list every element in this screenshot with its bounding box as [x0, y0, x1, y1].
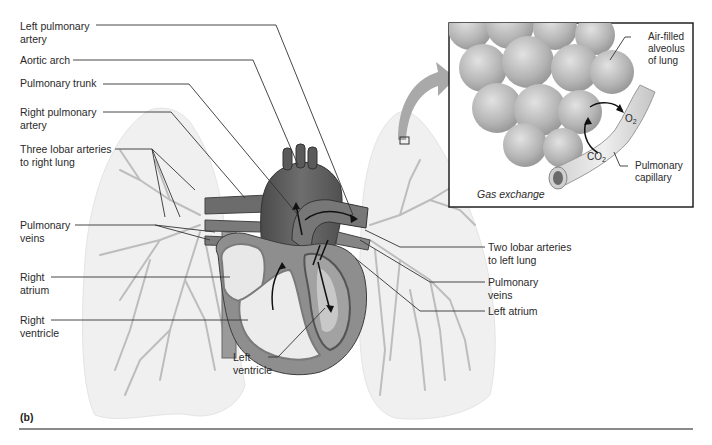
label-pulmonary-veins-left: Pulmonaryveins — [488, 276, 538, 301]
label-text: atrium — [20, 284, 49, 297]
label-pulmonary-veins-right: Pulmonaryveins — [20, 219, 70, 244]
label-text: alveolus — [648, 43, 685, 55]
label-text: Left pulmonary — [20, 20, 89, 32]
anatomy-illustration — [0, 0, 712, 445]
label-text: Two lobar arteries — [488, 241, 571, 253]
label-left-ventricle: Leftventricle — [233, 351, 272, 376]
label-text: capillary — [635, 172, 683, 184]
label-aortic-arch: Aortic arch — [20, 54, 70, 67]
label-three-lobar-arteries: Three lobar arteriesto right lung — [20, 143, 112, 168]
label-oxygen: O2 — [625, 113, 637, 129]
label-text: Pulmonary — [488, 276, 538, 288]
label-text: Aortic arch — [20, 54, 70, 66]
label-pulmonary-capillary: Pulmonarycapillary — [635, 160, 683, 184]
label-right-atrium: Rightatrium — [20, 271, 49, 296]
bottom-rule — [19, 428, 693, 430]
label-text: veins — [488, 289, 538, 302]
label-text: to right lung — [20, 156, 112, 169]
label-text: Left atrium — [488, 305, 538, 317]
label-text: ventricle — [20, 327, 59, 340]
label-text: Left — [233, 351, 251, 363]
label-right-pulmonary-artery: Right pulmonaryartery — [20, 106, 96, 131]
gas-subscript: 2 — [602, 156, 606, 163]
label-text: veins — [20, 232, 70, 245]
pulmonary-circulation-figure: Left pulmonaryartery Aortic arch Pulmona… — [0, 0, 712, 445]
label-text: of lung — [648, 55, 685, 67]
label-text: artery — [20, 119, 96, 132]
gas-subscript: 2 — [633, 118, 637, 125]
label-text: to left lung — [488, 254, 571, 267]
label-right-ventricle: Rightventricle — [20, 314, 59, 339]
label-text: Right pulmonary — [20, 106, 96, 118]
gas-formula: CO — [587, 151, 602, 162]
label-text: Right — [20, 271, 45, 283]
label-carbon-dioxide: CO2 — [587, 151, 606, 167]
label-text: Three lobar arteries — [20, 143, 112, 155]
label-text: artery — [20, 33, 89, 46]
label-text: Air-filled — [648, 31, 684, 42]
label-text: Pulmonary — [635, 160, 683, 171]
label-text: Pulmonary — [20, 219, 70, 231]
label-air-filled-alveolus: Air-filledalveolusof lung — [648, 31, 685, 67]
label-two-lobar-arteries: Two lobar arteriesto left lung — [488, 241, 571, 266]
label-text: Right — [20, 314, 45, 326]
label-pulmonary-trunk: Pulmonary trunk — [20, 77, 96, 90]
label-left-atrium: Left atrium — [488, 305, 538, 318]
label-text: Pulmonary trunk — [20, 77, 96, 89]
label-text: ventricle — [233, 364, 272, 377]
heart — [205, 144, 370, 375]
inset-caption: Gas exchange — [477, 188, 545, 200]
gas-formula: O — [625, 113, 633, 124]
label-left-pulmonary-artery: Left pulmonaryartery — [20, 20, 89, 45]
panel-label: (b) — [20, 411, 33, 423]
